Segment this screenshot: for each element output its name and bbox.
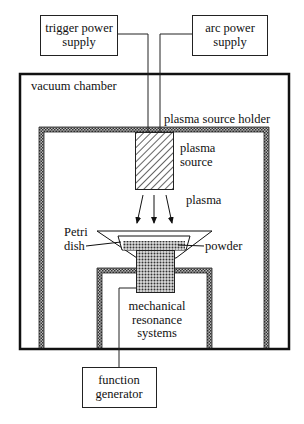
powder-label: powder <box>205 239 243 253</box>
powder <box>123 241 185 250</box>
plasma-arrow-left <box>137 195 143 223</box>
plasma-source <box>136 133 174 190</box>
petri-label-2: dish <box>64 239 86 253</box>
fg-label-2: generator <box>95 387 143 401</box>
mech-label-3: systems <box>137 326 177 340</box>
fg-label-1: function <box>98 373 140 387</box>
mechanical-pillar <box>137 251 175 293</box>
holder-label: plasma source holder <box>164 112 271 126</box>
mech-label-1: mechanical <box>129 299 186 313</box>
source-label-1: plasma <box>180 141 216 155</box>
petri-label-1: Petri <box>64 225 88 239</box>
vacuum-chamber-label: vacuum chamber <box>31 79 118 93</box>
source-label-2: source <box>180 155 213 169</box>
plasma-apparatus-diagram: trigger power supply arc power supply va… <box>0 0 304 424</box>
trigger-label-1: trigger power <box>45 21 114 35</box>
arc-label-2: supply <box>213 35 247 49</box>
plasma-arrow-right <box>166 195 172 223</box>
arc-label-1: arc power <box>205 21 255 35</box>
mech-label-2: resonance <box>132 313 182 327</box>
trigger-label-2: supply <box>62 35 96 49</box>
plasma-label: plasma <box>186 193 222 207</box>
trigger-wire <box>117 34 148 132</box>
